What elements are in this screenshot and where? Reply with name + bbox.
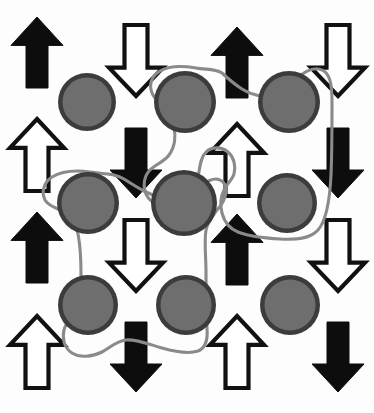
spin-lattice-figure	[0, 0, 374, 413]
lattice-site-layer	[0, 0, 374, 413]
site-core	[159, 76, 212, 129]
lattice-site	[58, 275, 118, 335]
site-core	[161, 280, 212, 331]
site-core	[265, 280, 316, 331]
lattice-site	[257, 173, 317, 233]
site-core	[262, 178, 313, 229]
lattice-site	[154, 71, 216, 133]
site-core	[156, 175, 213, 232]
site-core	[62, 177, 115, 230]
site-core	[63, 78, 112, 127]
lattice-site	[58, 73, 116, 131]
lattice-site	[260, 275, 320, 335]
lattice-site	[57, 172, 119, 234]
lattice-site	[156, 275, 216, 335]
lattice-site	[151, 170, 217, 236]
site-core	[63, 280, 114, 331]
lattice-site	[258, 71, 320, 133]
site-core	[263, 76, 316, 129]
